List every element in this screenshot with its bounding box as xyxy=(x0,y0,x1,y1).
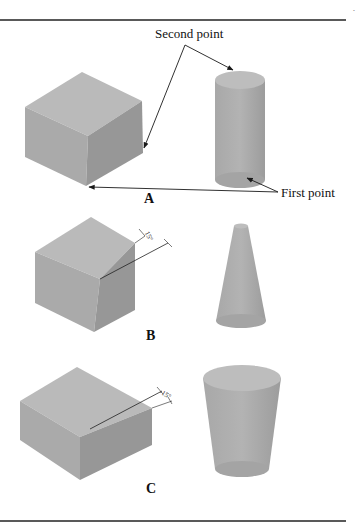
figure-drawing xyxy=(0,0,357,526)
panel-a-caption: A xyxy=(144,191,154,207)
panel-c-box xyxy=(20,367,172,480)
panel-a-cylinder xyxy=(215,71,265,188)
second-point-label: Second point xyxy=(155,26,223,42)
figure-page: • Second point First point A B C 15° -15… xyxy=(0,0,357,526)
panel-b-caption: B xyxy=(146,328,155,344)
panel-c-caption: C xyxy=(146,481,156,497)
panel-c-frustum xyxy=(203,365,281,477)
first-point-label: First point xyxy=(281,185,335,201)
panel-a-box xyxy=(25,72,143,186)
corner-mark: • xyxy=(353,8,355,13)
panel-b-cone xyxy=(216,224,266,329)
